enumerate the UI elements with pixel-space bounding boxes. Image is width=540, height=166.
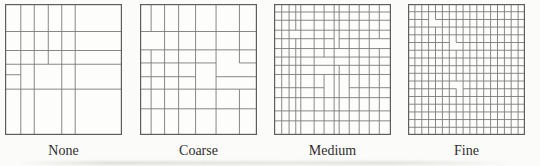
mesh-panel-none: None xyxy=(5,4,122,158)
mesh-grid-none xyxy=(5,4,122,135)
mesh-label-medium: Medium xyxy=(274,144,391,158)
mesh-label-fine: Fine xyxy=(408,144,525,158)
mesh-label-none: None xyxy=(5,144,122,158)
mesh-grid-medium xyxy=(274,4,391,135)
mesh-refinement-figure: None Coarse Medium Fine xyxy=(0,0,540,166)
mesh-panel-fine: Fine xyxy=(408,4,525,158)
mesh-panel-medium: Medium xyxy=(274,4,391,158)
scan-artifact-smudge xyxy=(18,161,512,165)
mesh-grid-coarse xyxy=(140,4,257,135)
mesh-label-coarse: Coarse xyxy=(140,144,257,158)
mesh-grid-fine xyxy=(408,4,525,135)
mesh-panel-coarse: Coarse xyxy=(140,4,257,158)
